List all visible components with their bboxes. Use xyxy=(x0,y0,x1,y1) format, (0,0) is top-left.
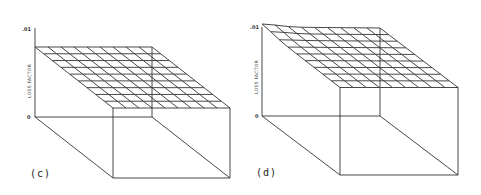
panel-c-zlabel: LOSS FACTOR xyxy=(27,64,32,98)
panel-c-ztick-top: .01 xyxy=(22,26,31,32)
panel-d-label: (d) xyxy=(256,167,277,178)
panel-c-ztick-bottom: 0 xyxy=(27,114,30,120)
panel-c-label: (c) xyxy=(30,168,51,179)
panel-d-ztick-top: .01 xyxy=(250,24,259,30)
panel-d-zlabel: LOSS FACTOR xyxy=(254,60,259,94)
panel-c-plot xyxy=(35,28,230,178)
panel-d-plot xyxy=(262,24,458,175)
plots-canvas xyxy=(0,0,481,195)
panel-d-ztick-bottom: 0 xyxy=(255,113,258,119)
